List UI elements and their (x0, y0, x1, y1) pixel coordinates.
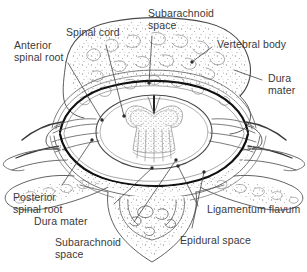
label-line-1: Posterior (13, 192, 63, 204)
label-spinal-cord: Spinal cord (66, 27, 120, 39)
label-line-2: spinal root (14, 52, 64, 64)
label-ligamentum-flavum: Ligamentum flavum (207, 204, 300, 216)
anatomy-figure: Subarachnoid space Spinal cord Vertebral… (0, 0, 307, 272)
label-anterior-spinal-root: Anterior spinal root (14, 40, 64, 63)
label-dura-mater-bottom: Dura mater (34, 216, 88, 228)
label-line-1: Dura (268, 73, 295, 85)
label-line-2: space (55, 249, 121, 261)
label-dura-mater-right: Dura mater (268, 73, 295, 96)
label-posterior-spinal-root: Posterior spinal root (13, 192, 63, 215)
label-line-1: Subarachnoid (55, 237, 121, 249)
label-subarachnoid-space-top: Subarachnoid space (148, 8, 214, 31)
label-line-1: Ligamentum flavum (207, 204, 300, 216)
label-line-1: Subarachnoid (148, 8, 214, 20)
label-line-2: space (148, 20, 214, 32)
label-subarachnoid-space-bottom: Subarachnoid space (55, 237, 121, 260)
label-line-1: Spinal cord (66, 27, 120, 39)
label-line-1: Dura mater (34, 216, 88, 228)
label-line-1: Vertebral body (217, 39, 286, 51)
label-line-2: spinal root (13, 204, 63, 216)
label-line-1: Epidural space (180, 235, 251, 247)
label-vertebral-body: Vertebral body (217, 39, 286, 51)
label-epidural-space: Epidural space (180, 235, 251, 247)
label-line-2: mater (268, 85, 295, 97)
label-line-1: Anterior (14, 40, 64, 52)
